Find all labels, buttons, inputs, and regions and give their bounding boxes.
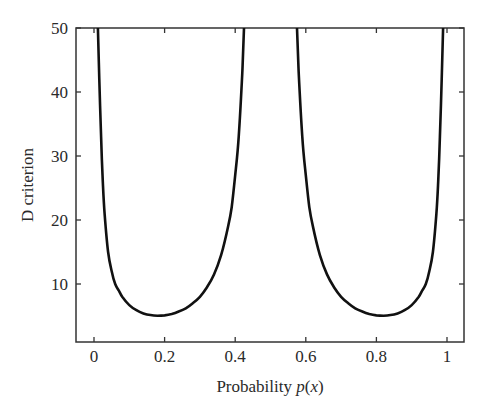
x-axis-label: Probability p(x) — [216, 377, 323, 396]
x-axis-ticks: 00.20.40.60.81 — [90, 28, 452, 366]
x-tick-label: 0.2 — [154, 347, 175, 366]
x-tick-label: 0.8 — [366, 347, 387, 366]
x-tick-label: 0 — [90, 347, 99, 366]
y-axis-ticks: 1020304050 — [51, 19, 464, 294]
y-tick-label: 50 — [51, 19, 68, 38]
x-tick-label: 0.6 — [295, 347, 316, 366]
data-curve — [98, 28, 244, 316]
y-tick-label: 10 — [51, 275, 68, 294]
y-tick-label: 20 — [51, 211, 68, 230]
y-axis-label: D criterion — [18, 147, 37, 222]
y-tick-label: 40 — [51, 83, 68, 102]
plot-frame — [76, 28, 464, 342]
data-curves — [98, 28, 443, 316]
x-tick-label: 1 — [443, 347, 452, 366]
y-tick-label: 30 — [51, 147, 68, 166]
x-tick-label: 0.4 — [225, 347, 247, 366]
data-curve — [297, 28, 443, 316]
chart: 00.20.40.60.81 1020304050 Probability p(… — [0, 0, 478, 411]
